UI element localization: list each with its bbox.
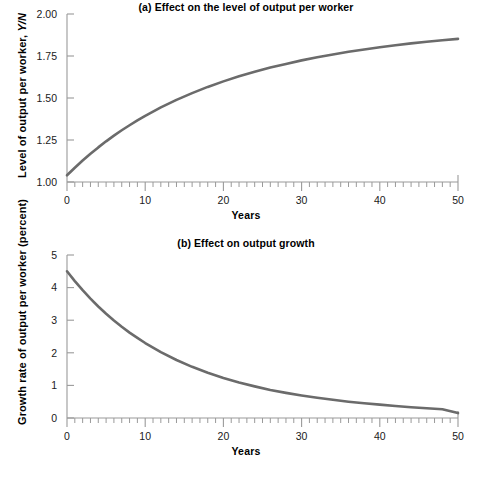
y-tick-label: 1.00 — [37, 176, 58, 188]
y-tick-label: 5 — [51, 249, 57, 261]
x-tick-label: 20 — [218, 430, 230, 442]
x-tick-label: 40 — [374, 430, 386, 442]
panel-a-plot: 1.001.251.501.752.0001020304050 — [0, 0, 492, 230]
panel-b: (b) Effect on output growth Growth rate … — [0, 230, 492, 487]
x-tick-label: 10 — [139, 194, 151, 206]
y-tick-label: 2.00 — [37, 8, 58, 20]
x-tick-label: 30 — [296, 194, 308, 206]
figure-container: (a) Effect on the level of output per wo… — [0, 0, 492, 487]
data-series-line — [67, 271, 458, 413]
x-tick-label: 50 — [452, 430, 464, 442]
x-tick-label: 40 — [374, 194, 386, 206]
panel-b-x-axis-label: Years — [0, 445, 492, 457]
y-tick-label: 3 — [51, 314, 57, 326]
panel-a-x-axis-label: Years — [0, 209, 492, 221]
data-series-line — [67, 39, 458, 175]
x-tick-label: 0 — [64, 194, 70, 206]
x-tick-label: 20 — [218, 194, 230, 206]
x-tick-label: 30 — [296, 430, 308, 442]
y-tick-label: 2 — [51, 347, 57, 359]
y-tick-label: 1.75 — [37, 50, 58, 62]
panel-a: (a) Effect on the level of output per wo… — [0, 0, 492, 230]
y-tick-label: 4 — [51, 281, 57, 293]
y-tick-label: 0 — [51, 412, 57, 424]
y-tick-label: 1.50 — [37, 92, 58, 104]
x-tick-label: 0 — [64, 430, 70, 442]
y-tick-label: 1.25 — [37, 134, 58, 146]
x-tick-label: 50 — [452, 194, 464, 206]
y-tick-label: 1 — [51, 379, 57, 391]
x-tick-label: 10 — [139, 430, 151, 442]
